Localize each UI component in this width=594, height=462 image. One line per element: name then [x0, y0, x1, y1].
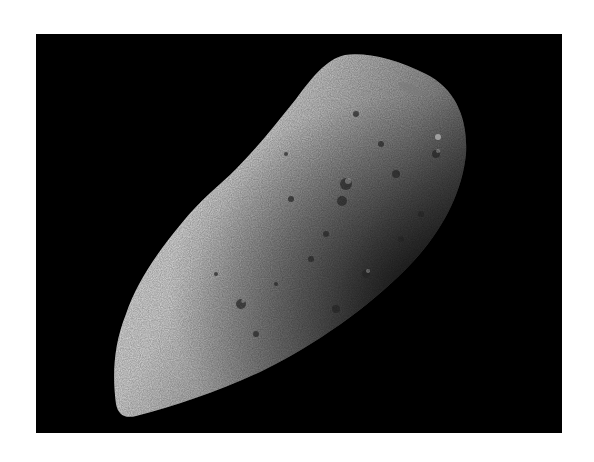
asteroid-photo: Grayscale photograph of an elongated, he… — [36, 34, 562, 433]
asteroid-body — [36, 34, 562, 433]
asteroid-illustration — [36, 34, 562, 433]
